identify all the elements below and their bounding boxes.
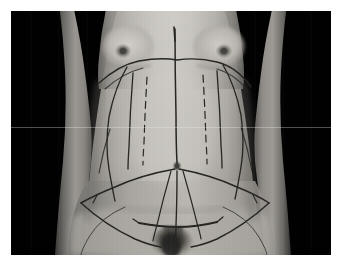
umbilicus-center <box>175 163 179 169</box>
image-canvas <box>0 0 346 272</box>
right-nipple <box>120 48 126 54</box>
left-nipple <box>221 48 227 54</box>
sternal-notch-mark <box>174 27 175 41</box>
scan-striping <box>11 11 331 255</box>
clinical-photograph <box>11 11 331 255</box>
photo-content <box>11 11 331 255</box>
